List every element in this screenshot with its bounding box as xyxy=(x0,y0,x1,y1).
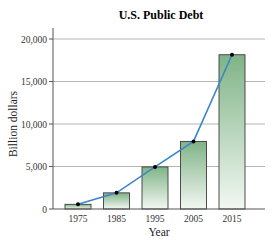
y-tick-label: 15,000 xyxy=(21,77,47,87)
chart-canvas: U.S. Public Debt 05,00010,00015,00020,00… xyxy=(0,0,272,242)
x-tick-label: 2015 xyxy=(223,214,242,224)
x-axis-label: Year xyxy=(148,226,169,238)
y-tick-label: 10,000 xyxy=(21,120,47,130)
bars xyxy=(65,55,245,209)
data-point-marker xyxy=(192,139,196,143)
x-tick-label: 1975 xyxy=(69,214,88,224)
chart-title: U.S. Public Debt xyxy=(119,8,204,22)
data-point-marker xyxy=(76,202,80,206)
data-point-marker xyxy=(115,191,119,195)
y-tick-labels: 05,00010,00015,00020,000 xyxy=(21,35,47,215)
data-point-marker xyxy=(153,165,157,169)
x-tick-label: 1995 xyxy=(146,214,165,224)
y-tick-label: 0 xyxy=(42,205,47,215)
x-tick-label: 2005 xyxy=(184,214,203,224)
bar-2005 xyxy=(181,141,207,209)
data-point-marker xyxy=(230,53,234,57)
y-axis-label: Billion dollars xyxy=(7,90,19,157)
x-tick-label: 1985 xyxy=(107,214,126,224)
x-tick-labels: 19751985199520052015 xyxy=(69,214,242,224)
y-tick-label: 5,000 xyxy=(26,162,48,172)
y-tick-label: 20,000 xyxy=(21,35,47,45)
bar-2015 xyxy=(219,55,245,209)
